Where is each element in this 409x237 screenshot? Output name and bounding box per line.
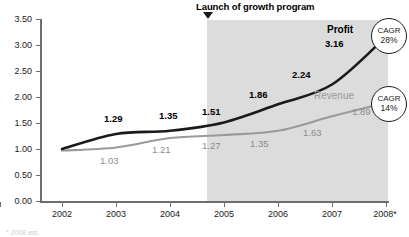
- cagr-badge-value: 14%: [380, 104, 397, 113]
- revenue-value-label: 1.63: [303, 127, 322, 138]
- plot-lines: [0, 0, 409, 237]
- revenue-line: [62, 103, 386, 151]
- cagr-badge-profit: CAGR 28%: [371, 18, 407, 54]
- profit-value-label: 1.35: [159, 110, 178, 121]
- profit-value-label: 2.24: [292, 69, 311, 80]
- revenue-value-label: 1.89: [352, 106, 371, 117]
- revenue-value-label: 1.35: [250, 138, 269, 149]
- revenue-value-label: 1.27: [202, 140, 221, 151]
- profit-value-label: 3.16: [325, 38, 344, 49]
- profit-value-label: 1.51: [202, 106, 221, 117]
- cagr-badge-revenue: CAGR 14%: [371, 86, 407, 122]
- revenue-value-label: 1.03: [100, 155, 119, 166]
- series-label-profit: Profit: [327, 24, 353, 35]
- profit-value-label: 1.86: [249, 89, 268, 100]
- footnote: * 2008 est.: [6, 229, 39, 237]
- series-label-revenue: Revenue: [314, 90, 354, 101]
- profit-value-label: 1.29: [104, 113, 123, 124]
- cagr-badge-value: 28%: [380, 36, 397, 45]
- revenue-value-label: 1.21: [152, 144, 171, 155]
- chart-container: Launch of growth program 3.50 3.00 2.50 …: [0, 0, 409, 237]
